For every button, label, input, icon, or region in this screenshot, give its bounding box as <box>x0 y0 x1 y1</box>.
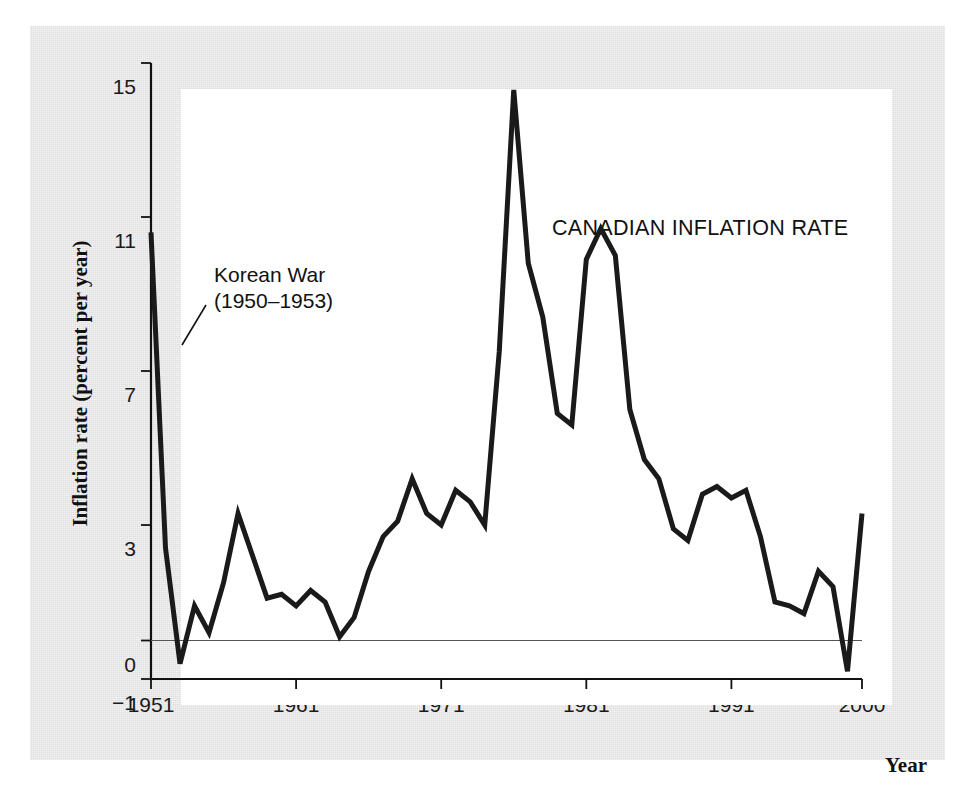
annotation-leader-line <box>182 305 206 345</box>
inflation-rate-line <box>151 90 862 671</box>
figure-root: Inflation rate (percent per year) Year 1… <box>0 0 969 790</box>
chart-svg <box>0 0 969 790</box>
